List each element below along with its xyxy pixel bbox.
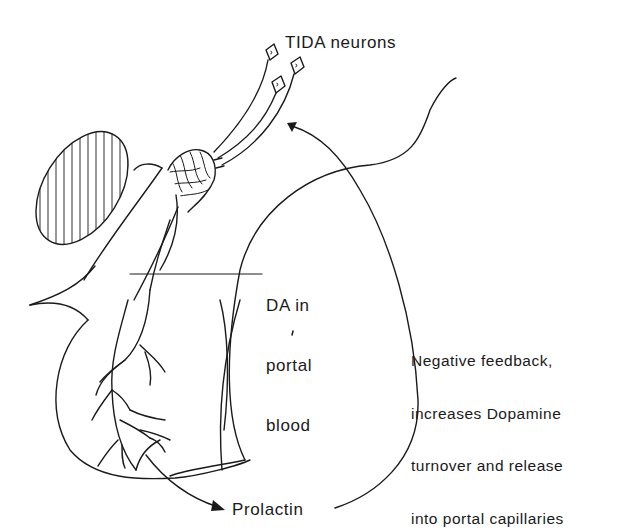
tida-neurons-label: TIDA neurons bbox=[285, 33, 396, 52]
prolactin-label: Prolactin bbox=[232, 500, 304, 519]
optic-chiasm-icon bbox=[17, 115, 147, 260]
da-label-line: blood bbox=[266, 416, 312, 436]
feedback-label-line: increases Dopamine bbox=[411, 405, 564, 423]
tida-neuron-icon bbox=[214, 44, 304, 165]
tida-dopamine-prolactin-diagram: TIDA neurons DA in portal blood Negative… bbox=[0, 0, 635, 532]
feedback-label-line: into portal capillaries bbox=[411, 510, 564, 528]
da-in-portal-blood-label: DA in portal blood bbox=[266, 256, 312, 476]
feedback-label-line: Negative feedback, bbox=[411, 352, 564, 370]
negative-feedback-label: Negative feedback, increases Dopamine tu… bbox=[411, 317, 564, 532]
prolactin-release-arrow bbox=[146, 455, 225, 511]
da-label-line: portal bbox=[266, 356, 312, 376]
da-label-line: DA in bbox=[266, 296, 312, 316]
feedback-label-line: turnover and release bbox=[411, 457, 564, 475]
